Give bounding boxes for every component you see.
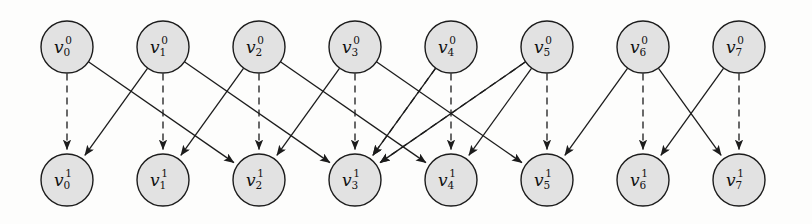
node-v3_1[interactable]: v31 bbox=[329, 154, 381, 206]
node-label-v5_0: v50 bbox=[534, 34, 552, 58]
node-label-v2_0: v20 bbox=[246, 34, 264, 58]
node-label-v4_0: v40 bbox=[438, 34, 456, 58]
node-v3_0[interactable]: v30 bbox=[329, 21, 381, 73]
node-v2_0[interactable]: v20 bbox=[233, 21, 285, 73]
node-label-v0_0: v00 bbox=[54, 34, 72, 58]
node-v2_1[interactable]: v21 bbox=[233, 154, 285, 206]
node-v1_1[interactable]: v11 bbox=[137, 154, 189, 206]
figure-canvas: v00v10v20v30v40v50v60v70v01v11v21v31v41v… bbox=[0, 0, 812, 224]
solid-edge-5-to-4 bbox=[469, 68, 532, 155]
node-label-v5_1: v51 bbox=[534, 167, 552, 191]
node-label-v1_1: v11 bbox=[150, 167, 168, 191]
node-label-v3_0: v30 bbox=[342, 34, 360, 58]
node-label-v1_0: v10 bbox=[150, 34, 168, 58]
node-v7_0[interactable]: v70 bbox=[713, 21, 765, 73]
node-v4_0[interactable]: v40 bbox=[425, 21, 477, 73]
node-label-v7_1: v71 bbox=[726, 167, 744, 191]
node-v5_1[interactable]: v51 bbox=[521, 154, 573, 206]
solid-edge-6-to-7 bbox=[659, 68, 722, 155]
node-v7_1[interactable]: v71 bbox=[713, 154, 765, 206]
node-label-v2_1: v21 bbox=[246, 167, 264, 191]
time-expanded-graph: v00v10v20v30v40v50v60v70v01v11v21v31v41v… bbox=[0, 0, 812, 224]
solid-edge-7-to-6 bbox=[661, 68, 724, 155]
node-v0_1[interactable]: v01 bbox=[41, 154, 93, 206]
node-label-v7_0: v70 bbox=[726, 34, 744, 58]
node-label-v6_1: v61 bbox=[630, 167, 648, 191]
node-label-v6_0: v60 bbox=[630, 34, 648, 58]
solid-edge-5-to-3 bbox=[380, 62, 525, 163]
node-v1_0[interactable]: v10 bbox=[137, 21, 189, 73]
node-v0_0[interactable]: v00 bbox=[41, 21, 93, 73]
node-label-v4_1: v41 bbox=[438, 167, 456, 191]
node-label-v0_1: v01 bbox=[54, 167, 72, 191]
node-label-v3_1: v31 bbox=[342, 167, 360, 191]
node-v5_0[interactable]: v50 bbox=[521, 21, 573, 73]
node-v4_1[interactable]: v41 bbox=[425, 154, 477, 206]
node-v6_0[interactable]: v60 bbox=[617, 21, 669, 73]
node-v6_1[interactable]: v61 bbox=[617, 154, 669, 206]
edge-layer bbox=[67, 62, 739, 163]
solid-edge-6-to-5 bbox=[565, 68, 628, 155]
